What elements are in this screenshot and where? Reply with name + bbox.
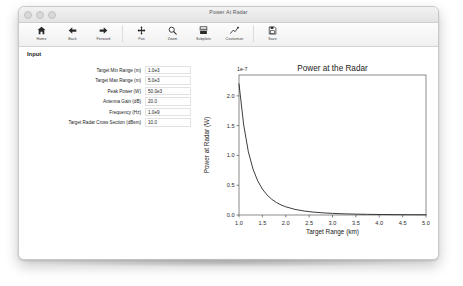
- toolbar-forward-button[interactable]: Forward: [88, 23, 119, 47]
- label-target-max-range: Target Max Range (m): [19, 78, 145, 83]
- input-antenna-gain[interactable]: 20.0: [145, 97, 191, 106]
- power-at-radar-chart[interactable]: 1e-7Power at the Radar1.01.52.02.53.03.5…: [197, 57, 435, 253]
- field-row-target-rcs: Target Radar Cross Section (dBsm) 10.0: [19, 118, 195, 128]
- label-target-rcs: Target Radar Cross Section (dBsm): [19, 120, 145, 125]
- input-section-title: Input: [27, 51, 41, 57]
- toolbar-save-label: Save: [268, 37, 277, 41]
- x-tick-label: 2.5: [305, 220, 313, 226]
- y-tick-label: 1.0: [227, 152, 235, 158]
- x-tick-label: 1.5: [258, 220, 266, 226]
- x-tick-label: 5.0: [422, 220, 430, 226]
- y-tick-label: 0.5: [227, 182, 235, 188]
- toolbar-group-file: Save: [257, 23, 288, 46]
- toolbar-zoom-label: Zoom: [168, 37, 178, 41]
- window-title: Power At Radar: [19, 9, 438, 15]
- field-row-target-max-range: Target Max Range (m) 5.0e3: [19, 76, 195, 86]
- x-tick-label: 1.0: [235, 220, 243, 226]
- plot-frame: [239, 75, 426, 215]
- label-antenna-gain: Antenna Gain (dB): [19, 99, 145, 104]
- x-tick-label: 3.5: [352, 220, 360, 226]
- toolbar-pan-button[interactable]: Pan: [126, 23, 157, 47]
- field-row-antenna-gain: Antenna Gain (dB) 20.0: [19, 97, 195, 107]
- input-target-rcs[interactable]: 10.0: [145, 118, 191, 127]
- window-titlebar[interactable]: Power At Radar: [19, 7, 438, 23]
- floppy-save-icon: [268, 25, 277, 36]
- app-window: Power At Radar Home Back: [18, 6, 439, 260]
- chart-canvas: 1e-7Power at the Radar1.01.52.02.53.03.5…: [197, 57, 435, 253]
- input-target-max-range[interactable]: 5.0e3: [145, 76, 191, 85]
- customize-chart-icon: [230, 25, 239, 36]
- x-tick-label: 2.0: [282, 220, 290, 226]
- field-row-frequency: Frequency (Hz) 1.0e9: [19, 107, 195, 117]
- x-tick-label: 3.0: [329, 220, 337, 226]
- x-tick-label: 4.5: [399, 220, 407, 226]
- toolbar-pan-label: Pan: [138, 37, 145, 41]
- toolbar-zoom-button[interactable]: Zoom: [157, 23, 188, 47]
- pan-move-icon: [137, 25, 146, 36]
- field-row-target-min-range: Target Min Range (m) 1.0e3: [19, 65, 195, 75]
- toolbar-home-button[interactable]: Home: [26, 23, 57, 47]
- magnifier-icon: [168, 25, 177, 36]
- field-row-peak-power: Peak Power (W) 50.0e3: [19, 86, 195, 96]
- input-peak-power[interactable]: 50.0e3: [145, 87, 191, 96]
- toolbar-forward-label: Forward: [97, 37, 111, 41]
- toolbar-home-label: Home: [37, 37, 47, 41]
- x-axis-label: Target Range (km): [306, 228, 359, 236]
- y-axis-offset-label: 1e-7: [237, 66, 247, 72]
- toolbar-save-button[interactable]: Save: [257, 23, 288, 47]
- y-tick-label: 0.0: [227, 212, 235, 218]
- home-icon: [37, 25, 46, 36]
- toolbar-back-label: Back: [68, 37, 76, 41]
- toolbar-subplots-label: Subplots: [196, 37, 211, 41]
- y-tick-label: 2.0: [227, 93, 235, 99]
- y-tick-label: 1.5: [227, 123, 235, 129]
- matplotlib-toolbar: Home Back Forward: [19, 23, 438, 47]
- toolbar-subplots-button[interactable]: Subplots: [188, 23, 219, 47]
- toolbar-customize-button[interactable]: Customize: [219, 23, 250, 47]
- input-target-min-range[interactable]: 1.0e3: [145, 66, 191, 75]
- screenshot-root: Power At Radar Home Back: [0, 0, 463, 286]
- input-frequency[interactable]: 1.0e9: [145, 108, 191, 117]
- window-content: Input Target Min Range (m) 1.0e3 Target …: [19, 47, 438, 260]
- toolbar-customize-label: Customize: [226, 37, 244, 41]
- subplots-icon: [199, 25, 208, 36]
- window-drop-shadow: [22, 258, 433, 267]
- toolbar-group-navigation: Home Back Forward: [26, 23, 119, 46]
- y-axis-label: Power at Radar (W): [203, 117, 211, 173]
- toolbar-separator-2: [253, 25, 254, 42]
- label-target-min-range: Target Min Range (m): [19, 68, 145, 73]
- toolbar-back-button[interactable]: Back: [57, 23, 88, 47]
- toolbar-group-tools: Pan Zoom Subplots: [126, 23, 250, 46]
- x-tick-label: 4.0: [375, 220, 383, 226]
- label-peak-power: Peak Power (W): [19, 89, 145, 94]
- toolbar-separator-1: [122, 25, 123, 42]
- chart-title: Power at the Radar: [297, 64, 368, 73]
- input-form: Target Min Range (m) 1.0e3 Target Max Ra…: [19, 65, 195, 128]
- arrow-right-icon: [99, 25, 108, 36]
- arrow-left-icon: [68, 25, 77, 36]
- label-frequency: Frequency (Hz): [19, 110, 145, 115]
